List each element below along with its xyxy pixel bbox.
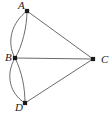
edge-a-b-arc-inner [15, 11, 27, 58]
graph-canvas: A B C D [0, 0, 110, 118]
vertex-label-c: C [101, 53, 109, 65]
vertex-label-b: B [5, 51, 12, 63]
vertex-a-dot [25, 9, 29, 13]
vertex-b-dot [13, 56, 17, 60]
edge-d-c [25, 59, 93, 103]
vertex-d-dot [23, 101, 27, 105]
edge-a-c [27, 11, 93, 59]
graph-diagram: A B C D [0, 0, 110, 118]
vertex-c-dot [91, 57, 95, 61]
vertex-label-a: A [17, 0, 25, 11]
vertex-label-d: D [14, 101, 23, 113]
edge-b-c [15, 58, 93, 59]
